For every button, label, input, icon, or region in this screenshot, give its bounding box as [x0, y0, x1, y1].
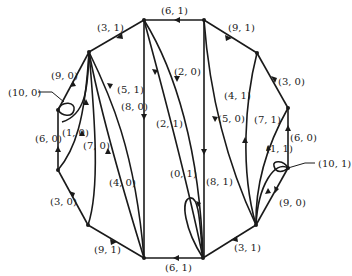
vertex — [286, 106, 290, 110]
edge-labels: (6, 1) (3, 1) (9, 1) (3, 0) (9, 0) (10, … — [8, 5, 351, 273]
vertex — [286, 166, 290, 170]
vertex — [86, 223, 90, 227]
vertex — [56, 108, 60, 112]
arrow-icon — [141, 114, 147, 120]
arrow-icon — [265, 188, 271, 194]
vertex — [142, 256, 146, 260]
label-bottom-3-1: (3, 1) — [234, 242, 261, 253]
vertex — [201, 256, 205, 260]
edge-1-0-upper — [62, 52, 89, 122]
vertex — [87, 50, 91, 54]
label-top-9-1: (9, 1) — [228, 22, 255, 33]
arrow-icon — [55, 146, 61, 152]
label-bottom-6-1: (6, 1) — [165, 262, 192, 273]
label-bottom-9-1: (9, 1) — [94, 244, 121, 255]
arrow-icon — [201, 149, 207, 155]
edge-8-0 — [89, 52, 144, 258]
label-right-3-0: (3, 0) — [278, 76, 305, 87]
label-right-1-1: (1, 1) — [266, 143, 293, 154]
label-left-1-0: (1, 0) — [62, 127, 89, 138]
arrow-icon — [107, 83, 113, 89]
edge-10-0-loop — [58, 103, 74, 115]
vertex — [142, 18, 146, 22]
vertex — [202, 18, 206, 22]
label-right-5-0: (5, 0) — [218, 113, 245, 124]
label-right-6-0: (6, 0) — [290, 132, 317, 143]
label-right-4-1: (4, 1) — [224, 90, 251, 101]
edge-4-1 — [246, 53, 257, 225]
leader-10-0 — [38, 92, 64, 102]
label-left-9-0: (9, 0) — [51, 70, 78, 81]
label-left-10-0: (10, 0) — [8, 87, 41, 98]
outer-edges — [58, 20, 288, 258]
label-left-3-0: (3, 0) — [50, 196, 77, 207]
label-left-8-0: (8, 0) — [121, 101, 148, 112]
edge-5-1 — [89, 52, 144, 258]
vertex — [255, 51, 259, 55]
label-center-8-1: (8, 1) — [206, 176, 233, 187]
edge-2-1 — [144, 20, 203, 258]
leader-10-1 — [288, 163, 315, 168]
label-top-6-1: (6, 1) — [161, 5, 188, 16]
label-top-3-1: (3, 1) — [97, 22, 124, 33]
label-right-7-1: (7, 1) — [254, 114, 281, 125]
label-left-4-0: (4, 0) — [109, 177, 136, 188]
arrow-icon — [242, 137, 248, 143]
arrow-icon — [285, 125, 291, 131]
label-right-10-1: (10, 1) — [318, 158, 351, 169]
graph-diagram: (6, 1) (3, 1) (9, 1) (3, 0) (9, 0) (10, … — [0, 0, 352, 276]
vertex — [56, 168, 60, 172]
label-left-6-0: (6, 0) — [35, 133, 62, 144]
interior-edges — [38, 20, 315, 258]
label-left-7-0: (7, 0) — [83, 140, 110, 151]
label-left-5-1: (5, 1) — [117, 84, 144, 95]
label-center-2-1: (2, 1) — [156, 118, 183, 129]
label-right-9-0: (9, 0) — [279, 197, 306, 208]
label-center-0-1: (0, 1) — [170, 168, 197, 179]
vertices — [56, 18, 290, 260]
arrow-icon — [174, 17, 180, 23]
arrow-icon — [173, 255, 179, 261]
label-center-2-0: (2, 0) — [174, 66, 201, 77]
vertex — [254, 223, 258, 227]
arrow-icon — [70, 81, 76, 87]
